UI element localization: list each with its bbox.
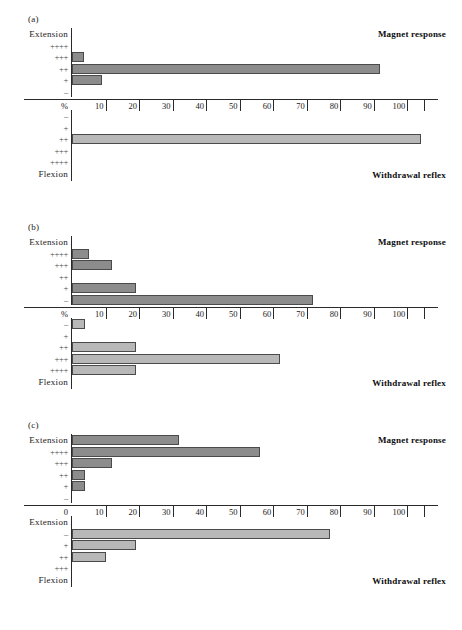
magnet-category-label: + xyxy=(2,482,68,491)
axis-tick-label: 50 xyxy=(208,507,238,517)
axis-tick-label: 50 xyxy=(208,101,238,111)
axis-tick-label: 70 xyxy=(275,309,305,319)
panel-tag: (a) xyxy=(28,14,39,24)
withdrawal-bar xyxy=(72,354,280,364)
magnet-category-label: ++ xyxy=(2,471,68,480)
axis-tick-label: 40 xyxy=(174,507,204,517)
withdrawal-category-label: Flexion xyxy=(2,170,68,179)
axis-end-tick xyxy=(424,100,425,111)
axis-origin-label: % xyxy=(36,309,68,319)
percent-axis-scale: %102030405060708090100 xyxy=(0,100,462,114)
category-axis-lower xyxy=(71,318,72,389)
magnet-category-label: Extension xyxy=(2,436,68,445)
withdrawal-category-label: +++ xyxy=(2,355,68,364)
withdrawal-category-label: ++++ xyxy=(2,158,68,167)
axis-tick-label: 90 xyxy=(342,101,372,111)
axis-end-tick xyxy=(424,308,425,319)
axis-tick-label: 60 xyxy=(241,309,271,319)
magnet-category-label: – xyxy=(2,296,68,305)
magnet-category-label: + xyxy=(2,76,68,85)
magnet-bar xyxy=(72,75,102,85)
axis-tick-label: 100 xyxy=(375,309,405,319)
panel-tag: (b) xyxy=(28,222,39,232)
axis-tick-label: 30 xyxy=(141,507,171,517)
withdrawal-category-label: Flexion xyxy=(2,378,68,387)
axis-tick-label: 50 xyxy=(208,309,238,319)
magnet-category-label: Extension xyxy=(2,238,68,247)
withdrawal-category-label: ++ xyxy=(2,135,68,144)
axis-tick-label: 10 xyxy=(74,507,104,517)
percent-axis-scale: %102030405060708090100 xyxy=(0,308,462,322)
category-axis-lower xyxy=(71,516,72,587)
axis-tick-label: 80 xyxy=(308,507,338,517)
magnet-category-label: Extension xyxy=(2,30,68,39)
magnet-category-label: +++ xyxy=(2,261,68,270)
withdrawal-bar xyxy=(72,552,106,562)
category-axis-upper xyxy=(71,236,72,305)
withdrawal-category-label: – xyxy=(2,320,68,329)
axis-tick-label: 40 xyxy=(174,309,204,319)
axis-tick-label: 80 xyxy=(308,309,338,319)
withdrawal-category-label: + xyxy=(2,124,68,133)
withdrawal-category-label: ++ xyxy=(2,553,68,562)
magnet-response-title: Magnet response xyxy=(378,435,446,445)
axis-tick-mark xyxy=(407,308,408,319)
withdrawal-bar xyxy=(72,319,85,329)
magnet-bar xyxy=(72,283,136,293)
magnet-category-label: ++++ xyxy=(2,250,68,259)
category-axis-lower xyxy=(71,110,72,181)
axis-tick-label: 100 xyxy=(375,507,405,517)
axis-origin-label: % xyxy=(36,101,68,111)
magnet-category-label: +++ xyxy=(2,53,68,62)
axis-tick-label: 90 xyxy=(342,507,372,517)
axis-tick-mark xyxy=(407,100,408,111)
panel-tag: (c) xyxy=(28,420,39,430)
magnet-bar xyxy=(72,447,260,457)
withdrawal-category-label: +++ xyxy=(2,147,68,156)
panel-c: (c)Extension++++++++++–01020304050607080… xyxy=(0,420,462,620)
magnet-bar xyxy=(72,481,85,491)
category-axis-upper xyxy=(71,28,72,97)
magnet-bar xyxy=(72,52,84,62)
magnet-bar xyxy=(72,64,380,74)
magnet-category-label: ++++ xyxy=(2,448,68,457)
magnet-category-label: ++ xyxy=(2,273,68,282)
axis-tick-label: 10 xyxy=(74,101,104,111)
category-axis-upper xyxy=(71,434,72,503)
withdrawal-category-label: +++ xyxy=(2,564,68,573)
magnet-bar xyxy=(72,470,85,480)
withdrawal-category-label: Flexion xyxy=(2,576,68,585)
magnet-response-title: Magnet response xyxy=(378,237,446,247)
magnet-bar xyxy=(72,458,112,468)
withdrawal-bar xyxy=(72,540,136,550)
axis-tick-label: 60 xyxy=(241,101,271,111)
axis-tick-label: 40 xyxy=(174,101,204,111)
magnet-category-label: – xyxy=(2,88,68,97)
percent-axis-scale: 0102030405060708090100 xyxy=(0,506,462,520)
withdrawal-bar xyxy=(72,134,421,144)
withdrawal-category-label: – xyxy=(2,112,68,121)
withdrawal-category-label: + xyxy=(2,541,68,550)
magnet-bar xyxy=(72,249,89,259)
axis-end-tick xyxy=(424,506,425,517)
axis-tick-mark xyxy=(407,506,408,517)
magnet-bar xyxy=(72,435,179,445)
panel-b: (b)Extension++++++++++–%1020304050607080… xyxy=(0,222,462,418)
withdrawal-reflex-title: Withdrawal reflex xyxy=(372,378,446,388)
axis-tick-label: 20 xyxy=(107,309,137,319)
axis-origin-label: 0 xyxy=(36,507,68,517)
axis-tick-label: 10 xyxy=(74,309,104,319)
withdrawal-category-label: ++++ xyxy=(2,366,68,375)
withdrawal-reflex-title: Withdrawal reflex xyxy=(372,170,446,180)
magnet-category-label: – xyxy=(2,494,68,503)
magnet-response-title: Magnet response xyxy=(378,29,446,39)
magnet-bar xyxy=(72,260,112,270)
magnet-category-label: + xyxy=(2,284,68,293)
axis-tick-label: 20 xyxy=(107,507,137,517)
withdrawal-category-label: + xyxy=(2,332,68,341)
axis-tick-label: 30 xyxy=(141,101,171,111)
figure-root: (a)Extension++++++++++–%1020304050607080… xyxy=(0,0,462,630)
axis-tick-label: 90 xyxy=(342,309,372,319)
withdrawal-category-label: – xyxy=(2,530,68,539)
axis-tick-label: 70 xyxy=(275,507,305,517)
